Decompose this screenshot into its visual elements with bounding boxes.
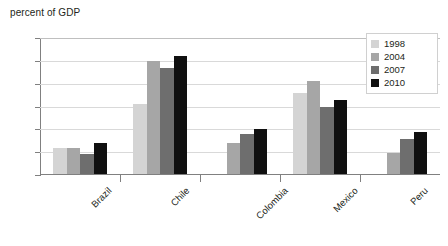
bar-chart: percent of GDP 3.02.52.01.51.00.50.0 Bra… [0,0,448,246]
group-separator [360,175,361,182]
group-separator [120,175,121,182]
legend-label: 2007 [384,65,405,75]
legend-swatch [371,40,379,48]
bar [387,153,401,175]
x-tick-label: Colombia [253,185,289,221]
group-separator [200,175,201,182]
bar [80,154,94,175]
bar [240,134,254,175]
bar [94,143,108,175]
bar [160,68,174,175]
legend-swatch [371,79,379,87]
group-separator [280,175,281,182]
legend-label: 2004 [384,52,405,62]
x-tick-label: Chile [168,185,191,208]
chart-legend: 1998200420072010 [366,33,438,94]
x-tick-label: Peru [407,185,429,207]
bar [307,81,321,175]
bar [53,148,67,175]
chart-axis-title: percent of GDP [10,7,80,18]
bar [174,56,188,175]
legend-swatch [371,66,379,74]
bar [400,139,414,175]
bar [133,104,147,175]
legend-item: 2010 [371,77,433,89]
bar [67,148,81,175]
bar [320,107,334,176]
x-tick-label: Mexico [330,185,359,214]
legend-item: 2007 [371,64,433,76]
bar [414,132,428,175]
legend-item: 2004 [371,51,433,63]
legend-label: 1998 [384,39,405,49]
bar [147,61,161,175]
legend-item: 1998 [371,38,433,50]
bar [334,100,348,175]
x-tick-label: Brazil [89,185,114,210]
bar [254,129,268,175]
legend-swatch [371,53,379,61]
bar [293,93,307,175]
y-tick-mark [35,175,40,176]
bar [227,143,241,175]
x-axis-baseline [40,174,440,175]
legend-label: 2010 [384,78,405,88]
